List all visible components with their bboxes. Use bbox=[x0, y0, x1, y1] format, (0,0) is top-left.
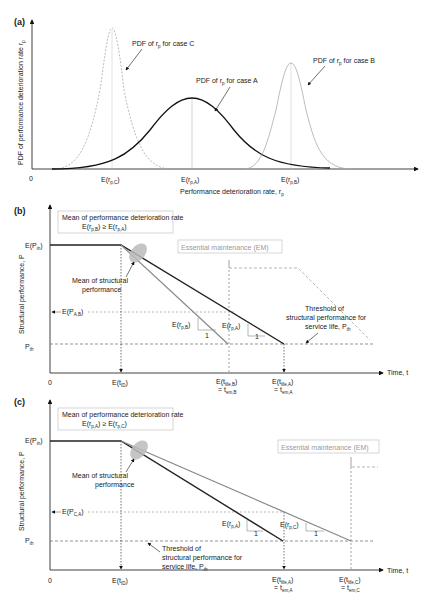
slope-run-c: 1 bbox=[314, 530, 318, 537]
mean-ellipse bbox=[127, 437, 152, 463]
tick-e-pin: E(Pin) bbox=[25, 242, 43, 251]
x-axis-label: Performance deterioration rate, rp bbox=[180, 188, 284, 197]
tick-tem-a: = tem,A bbox=[274, 584, 293, 593]
tick-e-pin: E(Pin) bbox=[25, 437, 43, 446]
slope-label-a: E(rp,A) bbox=[222, 322, 240, 331]
panel-a-label: (a) bbox=[14, 17, 25, 27]
threshold-label-1: Threshold of bbox=[162, 545, 201, 552]
origin-label: 0 bbox=[48, 577, 52, 584]
x-axis-label: Time, t bbox=[387, 567, 408, 574]
tick-e-rpb: E(rp,B) bbox=[281, 176, 299, 185]
slope-run-a: 1 bbox=[254, 530, 258, 537]
threshold-label-2: structural performance for bbox=[286, 314, 367, 322]
slope-label-b: E(rp,B) bbox=[172, 321, 190, 330]
pdf-curve-case-c bbox=[55, 28, 170, 169]
slope-label-c: E(rp,C) bbox=[280, 521, 299, 530]
tick-tem-a: = tem,A bbox=[274, 386, 293, 395]
origin-label: 0 bbox=[29, 175, 33, 182]
performance-case-a bbox=[50, 441, 283, 541]
panel-b-label: (b) bbox=[14, 206, 26, 216]
panel-b: (b) Time, t Structural performance, P Me… bbox=[14, 205, 408, 395]
slope-run-a: 1 bbox=[255, 333, 259, 340]
pdf-curve-case-a bbox=[52, 98, 330, 169]
tick-p-th: Pth bbox=[25, 343, 34, 352]
origin-label: 0 bbox=[48, 379, 52, 386]
x-axis-label: Time, t bbox=[387, 369, 408, 376]
slope-label-a: E(rp,A) bbox=[222, 520, 240, 529]
tick-p-th: Pth bbox=[25, 537, 34, 546]
mean-label-1: Mean of structural bbox=[72, 472, 128, 479]
label-pdf-case-b: PDF of rp for case B bbox=[313, 57, 375, 66]
tick-e-tid: E(tID) bbox=[112, 379, 128, 388]
pdf-curve-case-b bbox=[245, 63, 350, 169]
tick-e-rpa: E(rp,A) bbox=[181, 176, 199, 185]
threshold-label-1: Threshold of bbox=[305, 305, 344, 312]
tick-e-rpc: E(rp,C) bbox=[101, 176, 120, 185]
tick-tem-c: = tem,C bbox=[341, 584, 360, 593]
panel-c-label: (c) bbox=[14, 397, 25, 407]
y-axis-label: PDF of performance deterioration rate rp bbox=[17, 40, 26, 165]
tick-e-pab: E(PA,B) bbox=[62, 308, 83, 317]
panel-a: (a) PDF of performance deterioration rat… bbox=[14, 17, 418, 197]
arrow-case-c bbox=[126, 49, 142, 70]
tick-tem-b: = tem,B bbox=[218, 386, 237, 395]
y-axis-label: Structural performance, P bbox=[18, 254, 26, 334]
tick-e-tid: E(tID) bbox=[112, 577, 128, 586]
label-pdf-case-c: PDF of rp for case C bbox=[132, 40, 194, 49]
tick-e-pca: E(PC,A) bbox=[62, 508, 84, 517]
threshold-label-3: service life, Pth bbox=[305, 323, 351, 332]
arrow-mean bbox=[126, 262, 134, 277]
rate-box-title: Mean of performance deterioration rate bbox=[62, 411, 184, 419]
mean-label-2: performance bbox=[82, 286, 121, 294]
panel-c: (c) Time, t Structural performance, P Me… bbox=[14, 397, 408, 593]
em-label: Essential maintenance (EM) bbox=[181, 244, 269, 252]
em-label: Essential maintenance (EM) bbox=[281, 444, 369, 452]
mean-label-1: Mean of structural bbox=[72, 277, 128, 284]
arrow-threshold bbox=[306, 333, 318, 343]
mean-label-2: performance bbox=[95, 481, 134, 489]
label-pdf-case-a: PDF of rp for case A bbox=[196, 77, 258, 86]
arrow-mean bbox=[126, 459, 134, 472]
slope-run-b: 1 bbox=[205, 332, 209, 339]
arrow-case-a bbox=[215, 87, 230, 111]
y-axis-label: Structural performance, P bbox=[18, 451, 26, 531]
arrow-case-b bbox=[308, 66, 325, 85]
figure: (a) PDF of performance deterioration rat… bbox=[0, 0, 433, 594]
rate-box-title: Mean of performance deterioration rate bbox=[62, 214, 184, 222]
threshold-label-2: structural performance for bbox=[162, 554, 243, 562]
performance-case-a bbox=[50, 245, 284, 344]
arrow-threshold bbox=[148, 543, 160, 552]
